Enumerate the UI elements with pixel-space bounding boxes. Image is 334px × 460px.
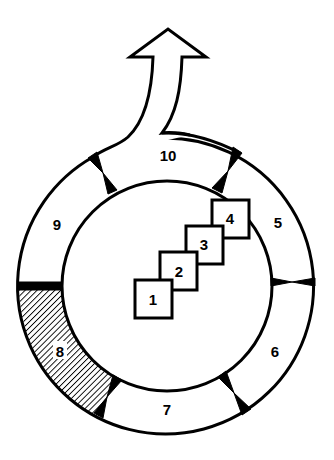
segment-label-8: 8 [56,343,64,360]
step-label-3: 3 [200,236,208,253]
segment-label-5: 5 [274,214,282,231]
step-label-2: 2 [175,263,183,280]
step-label-4: 4 [226,210,235,227]
segment-label-7: 7 [163,401,171,418]
cycle-diagram: 1 2 3 4 5 6 7 8 9 10 [0,0,334,460]
segment-label-9: 9 [53,216,61,233]
segment-label-10: 10 [160,147,177,164]
exit-arrow [93,29,206,157]
segment-label-6: 6 [271,343,279,360]
step-label-1: 1 [149,291,157,308]
